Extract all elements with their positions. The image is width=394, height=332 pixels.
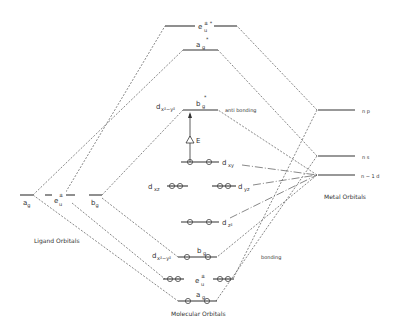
svg-text:x²−y²: x²−y²	[157, 255, 171, 262]
svg-text:*: *	[204, 94, 207, 100]
svg-text:u: u	[201, 281, 204, 287]
svg-text:±: ±	[201, 273, 205, 279]
dxy-label: d	[222, 159, 226, 167]
delta-e-arrow: E	[186, 112, 200, 162]
dxz-label: d	[148, 183, 152, 191]
dx2y2-lower-label: d	[152, 252, 156, 260]
delta-e-label: E	[196, 137, 200, 145]
ligand-ag-label: ag	[23, 199, 30, 209]
svg-text:z²: z²	[228, 222, 233, 228]
metal-orbitals-caption: Metal Orbitals	[324, 193, 366, 200]
ligand-bg-label: bg	[91, 199, 99, 209]
mo-diagram: ag e ± u bg Ligand Orbitals n p n s n − …	[0, 0, 394, 332]
eu-star-label: e	[198, 23, 202, 31]
bg-star-label: b	[196, 100, 201, 108]
bonding-annotation: bonding	[261, 254, 281, 261]
metal-nd-label: n − 1 d	[361, 173, 379, 179]
antibonding-mos: e ± * u a g * b g * d x²−y² anti bonding	[156, 20, 256, 114]
ag-star-label: a	[196, 41, 200, 49]
metal-np-label: n p	[362, 108, 370, 115]
antibonding-annotation: anti bonding	[225, 107, 256, 114]
nonbonding-mos: d xy d xz d yz d z²	[148, 159, 250, 228]
svg-text:*: *	[206, 36, 209, 42]
delta-icon	[186, 136, 194, 143]
metal-ns-label: n s	[362, 154, 370, 160]
svg-text:u: u	[204, 27, 207, 33]
svg-text:g: g	[203, 250, 206, 257]
svg-text:g: g	[202, 294, 205, 301]
metal-orbitals: n p n s n − 1 d Metal Orbitals	[318, 108, 379, 200]
ligand-eu-label: e	[54, 197, 58, 205]
bonding-mos: b g d x²−y² bonding e ± u a g Molecular …	[152, 247, 281, 317]
svg-text:xy: xy	[228, 162, 234, 169]
eu-bonding-label: e	[195, 277, 199, 285]
svg-text:± *: ± *	[204, 20, 213, 26]
svg-text:x²−y²: x²−y²	[161, 106, 175, 113]
dx2y2-upper-label: d	[156, 103, 160, 111]
svg-text:xz: xz	[154, 186, 160, 192]
svg-text:g: g	[202, 103, 205, 110]
dz2-label: d	[222, 219, 226, 227]
bg-bonding-label: b	[197, 247, 202, 255]
ligand-eu-sub: u	[59, 201, 62, 207]
ligand-orbitals-caption: Ligand Orbitals	[34, 237, 80, 245]
molecular-orbitals-caption: Molecular Orbitals	[171, 310, 226, 317]
dyz-label: d	[238, 183, 242, 191]
svg-text:g: g	[202, 44, 205, 51]
svg-text:yz: yz	[244, 186, 250, 193]
ligand-eu-sup: ±	[59, 192, 63, 198]
ag-bonding-label: a	[196, 291, 200, 299]
